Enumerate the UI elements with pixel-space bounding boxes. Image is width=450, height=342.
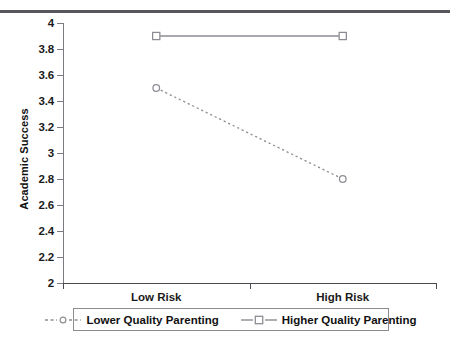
y-axis-tick xyxy=(57,101,63,102)
y-axis-tick xyxy=(57,153,63,154)
legend-label-higher-quality-parenting: Higher Quality Parenting xyxy=(282,314,417,326)
y-axis-tick xyxy=(57,179,63,180)
chart-legend: Lower Quality Parenting Higher Quality P… xyxy=(73,308,389,331)
y-axis-tick xyxy=(57,127,63,128)
x-axis-tick xyxy=(250,283,251,289)
series-line-0 xyxy=(156,88,343,179)
y-axis-tick-label: 3.8 xyxy=(0,43,54,55)
legend-item-higher-quality-parenting[interactable]: Higher Quality Parenting xyxy=(241,314,417,326)
y-axis-tick-label: 2 xyxy=(0,277,54,289)
x-axis-tick xyxy=(436,283,437,289)
y-axis-tick xyxy=(57,257,63,258)
y-axis-tick-label: 3.6 xyxy=(0,69,54,81)
y-axis-tick-label: 3.4 xyxy=(0,95,54,107)
data-point-marker xyxy=(339,32,346,39)
y-axis-tick-label: 3.2 xyxy=(0,121,54,133)
y-axis-tick-label: 3 xyxy=(0,147,54,159)
y-axis-line xyxy=(63,23,64,284)
legend-label-lower-quality-parenting: Lower Quality Parenting xyxy=(86,314,218,326)
legend-swatch-solid-square xyxy=(241,314,277,326)
y-axis-tick-label: 2.8 xyxy=(0,173,54,185)
data-point-marker xyxy=(153,32,160,39)
y-axis-tick-label: 4 xyxy=(0,17,54,29)
y-axis-tick-label: 2.2 xyxy=(0,251,54,263)
x-axis-tick-label: High Risk xyxy=(250,291,437,303)
legend-swatch-dotted-circle xyxy=(45,314,81,326)
legend-item-lower-quality-parenting[interactable]: Lower Quality Parenting xyxy=(45,314,218,326)
header-rule xyxy=(0,10,450,13)
y-axis-tick xyxy=(57,23,63,24)
data-point-marker xyxy=(339,176,346,183)
y-axis-tick xyxy=(57,49,63,50)
chart-figure: Academic Success 22.22.42.62.833.23.43.6… xyxy=(0,0,450,342)
y-axis-tick xyxy=(57,205,63,206)
data-point-marker xyxy=(153,85,160,92)
y-axis-tick-label: 2.4 xyxy=(0,225,54,237)
y-axis-tick xyxy=(57,75,63,76)
x-axis-tick xyxy=(63,283,64,289)
y-axis-tick xyxy=(57,231,63,232)
x-axis-tick-label: Low Risk xyxy=(63,291,250,303)
y-axis-tick-label: 2.6 xyxy=(0,199,54,211)
